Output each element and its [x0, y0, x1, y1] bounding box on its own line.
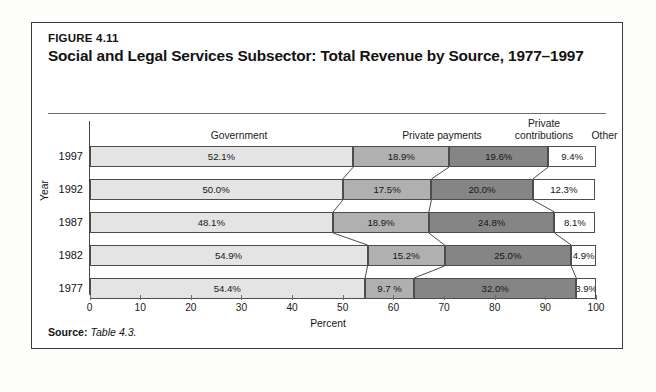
bar-segment-1987-government: 48.1%: [90, 212, 334, 233]
chart-plot-area: Government Private payments Private cont…: [32, 23, 624, 350]
x-tick-label-90: 90: [530, 302, 560, 313]
bar-segment-1992-private-payments: 17.5%: [343, 179, 432, 200]
x-tick-30: [241, 295, 242, 300]
bar-segment-1987-other: 8.1%: [554, 212, 595, 233]
year-label-1977: 1977: [41, 282, 83, 294]
bar-segment-1977-other: 3.9%: [576, 278, 596, 299]
bar-segment-1997-private-payments: 18.9%: [353, 146, 449, 167]
figure-frame: FIGURE 4.11 Social and Legal Services Su…: [31, 22, 623, 349]
year-label-1997: 1997: [41, 150, 83, 162]
bar-segment-1992-government: 50.0%: [90, 179, 343, 200]
x-tick-label-70: 70: [429, 302, 459, 313]
x-tick-label-0: 0: [75, 302, 105, 313]
bar-segment-1997-other: 9.4%: [548, 146, 596, 167]
x-tick-label-60: 60: [378, 302, 408, 313]
x-tick-label-40: 40: [277, 302, 307, 313]
source-note: Source: Table 4.3.: [48, 326, 137, 338]
bar-segment-1977-government: 54.4%: [90, 278, 366, 299]
year-label-1982: 1982: [41, 249, 83, 261]
x-tick-10: [140, 295, 141, 300]
year-label-1987: 1987: [41, 216, 83, 228]
bar-segment-1992-private-contributions: 20.0%: [431, 179, 532, 200]
x-tick-0: [90, 295, 91, 300]
x-tick-label-30: 30: [226, 302, 256, 313]
x-tick-100: [596, 295, 597, 300]
x-tick-50: [343, 295, 344, 300]
bar-segment-1987-private-contributions: 24.8%: [429, 212, 555, 233]
x-tick-80: [495, 295, 496, 300]
x-tick-70: [444, 295, 445, 300]
x-tick-label-20: 20: [176, 302, 206, 313]
bar-segment-1997-government: 52.1%: [90, 146, 354, 167]
x-tick-40: [292, 295, 293, 300]
bar-segment-1992-other: 12.3%: [533, 179, 595, 200]
bar-segment-1982-other: 4.9%: [571, 245, 596, 266]
bar-segment-1982-government: 54.9%: [90, 245, 368, 266]
x-tick-label-50: 50: [328, 302, 358, 313]
x-tick-label-80: 80: [480, 302, 510, 313]
bar-segment-1977-private-payments: 9.7 %: [365, 278, 414, 299]
bar-segment-1997-private-contributions: 19.6%: [449, 146, 548, 167]
x-tick-60: [393, 295, 394, 300]
x-tick-label-100: 100: [581, 302, 611, 313]
bar-segment-1982-private-payments: 15.2%: [368, 245, 445, 266]
bar-segment-1982-private-contributions: 25.0%: [445, 245, 572, 266]
bar-segment-1987-private-payments: 18.9%: [333, 212, 429, 233]
x-tick-label-10: 10: [125, 302, 155, 313]
x-tick-20: [191, 295, 192, 300]
year-label-1992: 1992: [41, 183, 83, 195]
source-label: Source:: [48, 326, 87, 338]
source-value: Table 4.3.: [90, 326, 136, 338]
x-tick-90: [545, 295, 546, 300]
